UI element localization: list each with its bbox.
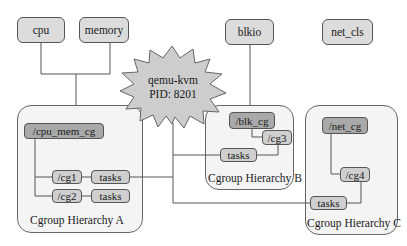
process-name: qemu-kvm <box>133 73 213 87</box>
cgroup-diagram: cpu memory blkio net_cls qemu-kvm PID: 8… <box>0 0 407 246</box>
hierarchy-a-cgroup-cg2: /cg2 <box>52 189 82 203</box>
subsystem-blkio: blkio <box>225 19 274 45</box>
cg1-tasks-label: tasks <box>100 171 122 183</box>
hierarchy-b-label: Cgroup Hierarchy B <box>208 172 302 184</box>
cg4-tasks-label: tasks <box>318 197 340 209</box>
cg3-label: /cg3 <box>268 132 287 144</box>
cg3-tasks-label: tasks <box>228 149 250 161</box>
hierarchy-c-cgroup-cg4: /cg4 <box>340 167 370 182</box>
process-pid: PID: 8201 <box>133 87 213 101</box>
hierarchy-a-cg1-tasks: tasks <box>91 170 130 184</box>
subsystem-memory: memory <box>79 17 129 43</box>
hierarchy-b-cg3-tasks: tasks <box>220 148 257 162</box>
hierarchy-c-label: Cgroup Hierarchy C <box>307 217 401 229</box>
subsystem-blkio-label: blkio <box>238 26 262 38</box>
hierarchy-a-cg2-tasks: tasks <box>91 189 130 203</box>
hierarchy-a-cgroup-cg1: /cg1 <box>52 170 82 184</box>
cg2-label: /cg2 <box>58 190 77 202</box>
subsystem-cpu-label: cpu <box>33 24 50 36</box>
hierarchy-c-root-label: /net_cg <box>329 120 361 132</box>
cg1-label: /cg1 <box>58 171 77 183</box>
hierarchy-c-root-cgroup: /net_cg <box>322 117 368 134</box>
subsystem-net-cls-label: net_cls <box>331 26 364 38</box>
hierarchy-a-root-cgroup: /cpu_mem_cg <box>24 123 104 139</box>
subsystem-cpu: cpu <box>17 17 65 43</box>
hierarchy-b-cgroup-cg3: /cg3 <box>262 130 292 145</box>
subsystem-net-cls: net_cls <box>322 19 373 45</box>
hierarchy-b-root-label: /blk_cg <box>236 115 269 127</box>
hierarchy-a-label: Cgroup Hierarchy A <box>30 214 124 226</box>
hierarchy-b-root-cgroup: /blk_cg <box>229 112 275 129</box>
hierarchy-c-cg4-tasks: tasks <box>310 196 347 210</box>
process-label: qemu-kvm PID: 8201 <box>133 73 213 101</box>
hierarchy-a-root-label: /cpu_mem_cg <box>33 125 95 137</box>
cg4-label: /cg4 <box>346 169 365 181</box>
subsystem-memory-label: memory <box>85 24 123 36</box>
cg2-tasks-label: tasks <box>100 190 122 202</box>
